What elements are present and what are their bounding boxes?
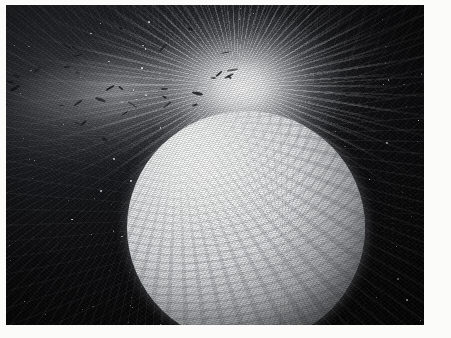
photograph: Bright cloud-banded sphere with luminous… — [6, 5, 424, 325]
film-grain-dark — [6, 5, 424, 325]
photo-frame: Bright cloud-banded sphere with luminous… — [0, 0, 451, 338]
